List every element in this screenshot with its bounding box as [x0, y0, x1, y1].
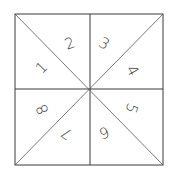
section-label-4: 4: [122, 62, 142, 79]
section-label-6: 6: [97, 122, 112, 142]
section-label-8: 8: [32, 101, 52, 117]
section-label-3: 3: [96, 33, 113, 53]
section-label-7: 7: [58, 123, 76, 143]
section-label-2: 2: [62, 33, 77, 53]
section-label-5: 5: [121, 101, 141, 116]
octant-square-diagram: 12345678: [0, 0, 172, 177]
section-label-1: 1: [32, 58, 51, 77]
